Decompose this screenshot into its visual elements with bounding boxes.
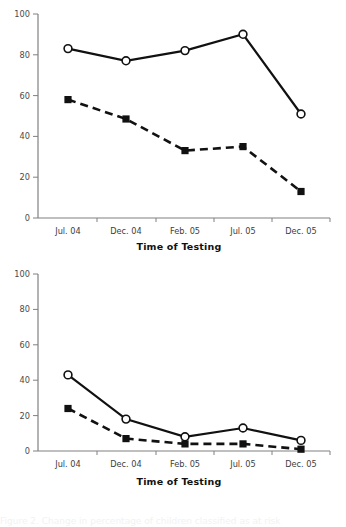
series-solid-marker-0 [64,45,72,53]
chart-bottom-series-dashed [64,405,304,453]
y-tick-label-0: 0 [25,213,30,223]
x-tick-label-2: Feb. 05 [170,459,200,469]
chart-bottom-axes [38,274,330,451]
chart-top-y-ticks: 100 80 60 40 20 0 [14,9,38,223]
series-solid-marker-2 [181,433,189,441]
series-solid-marker-3 [239,30,247,38]
chart-panel-top: 100 80 60 40 20 0 Jul. 04 Dec. 04 Feb. 0… [0,0,346,240]
series-dashed-marker-0 [64,96,71,103]
series-dashed-marker-4 [297,188,304,195]
series-dashed-marker-1 [122,115,129,122]
x-tick-label-0: Jul. 04 [54,459,81,469]
x-tick-label-1: Dec. 04 [110,226,141,236]
x-tick-label-1: Dec. 04 [110,459,141,469]
x-tick-label-4: Dec. 05 [285,226,316,236]
y-tick-label-20: 20 [20,411,30,421]
chart-top-axis-title: Time of Testing [6,241,346,252]
cropped-caption-text: Figure 2. Change in percentage of childr… [0,516,346,527]
y-tick-label-100: 100 [14,269,30,279]
series-dashed-marker-3 [239,440,246,447]
series-solid-marker-1 [122,57,130,65]
chart-bottom-series-solid [64,371,305,444]
series-solid-marker-2 [181,47,189,55]
x-tick-label-4: Dec. 05 [285,459,316,469]
series-solid-marker-1 [122,415,130,423]
series-dashed-marker-1 [122,435,129,442]
series-dashed-marker-4 [297,446,304,453]
series-solid-line [68,375,301,441]
chart-bottom-axis-title: Time of Testing [6,476,346,487]
chart-panel-bottom: 100 80 60 40 20 0 Jul. 04 Dec. 04 Feb. 0… [0,264,346,504]
x-tick-label-2: Feb. 05 [170,226,200,236]
y-tick-label-60: 60 [20,91,30,101]
x-tick-label-0: Jul. 04 [54,226,81,236]
chart-top-svg: 100 80 60 40 20 0 Jul. 04 Dec. 04 Feb. 0… [0,0,346,240]
series-dashed-marker-3 [239,143,246,150]
y-tick-label-80: 80 [20,50,30,60]
chart-top-x-ticks: Jul. 04 Dec. 04 Feb. 05 Jul. 05 Dec. 05 [54,218,330,236]
chart-top-axes [38,14,330,218]
series-dashed-marker-0 [64,405,71,412]
y-tick-label-40: 40 [20,131,30,141]
chart-bottom-x-ticks: Jul. 04 Dec. 04 Feb. 05 Jul. 05 Dec. 05 [54,451,330,469]
chart-bottom-svg: 100 80 60 40 20 0 Jul. 04 Dec. 04 Feb. 0… [0,264,346,479]
chart-top-series-dashed [64,96,304,195]
x-tick-label-3: Jul. 05 [229,459,256,469]
series-solid-marker-4 [297,110,305,118]
figure-container: 100 80 60 40 20 0 Jul. 04 Dec. 04 Feb. 0… [0,0,346,504]
y-tick-label-0: 0 [25,446,30,456]
series-solid-marker-4 [297,437,305,445]
y-tick-label-20: 20 [20,172,30,182]
series-dashed-line [68,100,301,192]
chart-bottom-y-ticks: 100 80 60 40 20 0 [14,269,38,456]
series-solid-marker-3 [239,424,247,432]
series-dashed-marker-2 [181,147,188,154]
series-solid-marker-0 [64,371,72,379]
y-tick-label-80: 80 [20,304,30,314]
y-tick-label-40: 40 [20,375,30,385]
x-tick-label-3: Jul. 05 [229,226,256,236]
y-tick-label-100: 100 [14,9,30,19]
y-tick-label-60: 60 [20,340,30,350]
chart-top-series-solid [64,30,305,118]
